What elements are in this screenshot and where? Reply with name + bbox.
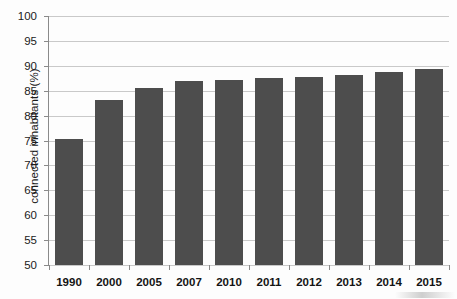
bar-slot: [129, 16, 169, 265]
bar: [95, 100, 123, 265]
bar: [135, 88, 163, 265]
bar-chart: connected inhabitants (%) 10095908580757…: [0, 0, 457, 299]
bar: [295, 77, 323, 265]
y-tick-label: 50: [5, 260, 37, 272]
y-tick-label: 75: [5, 136, 37, 148]
x-tick-mark: [369, 265, 370, 270]
y-tick-label: 85: [5, 86, 37, 98]
x-tick-mark: [449, 265, 450, 270]
bar-slot: [369, 16, 409, 265]
x-tick-mark: [289, 265, 290, 270]
bar: [215, 80, 243, 265]
bar: [55, 139, 83, 265]
bar-slot: [209, 16, 249, 265]
bar-slot: [49, 16, 89, 265]
bar-slot: [169, 16, 209, 265]
y-tick-label: 60: [5, 210, 37, 222]
y-tick-label: 70: [5, 160, 37, 172]
scan-artifact: [395, 292, 455, 298]
bar-slot: [289, 16, 329, 265]
bar-slot: [249, 16, 289, 265]
y-tick-label: 55: [5, 235, 37, 247]
x-tick-mark: [89, 265, 90, 270]
bar-slot: [329, 16, 369, 265]
bar: [415, 69, 443, 265]
bar: [175, 81, 203, 265]
x-tick-mark: [249, 265, 250, 270]
bar: [335, 75, 363, 265]
y-tick-label: 100: [5, 11, 37, 23]
plot-area: 10095908580757065605550 1990200020052007…: [49, 16, 449, 265]
y-tick-label: 90: [5, 61, 37, 73]
bar-slot: [409, 16, 449, 265]
bar: [375, 72, 403, 265]
y-tick-label: 95: [5, 36, 37, 48]
x-tick-mark: [209, 265, 210, 270]
x-tick-mark: [49, 265, 50, 270]
bar-slot: [89, 16, 129, 265]
y-tick-label: 65: [5, 185, 37, 197]
x-tick-mark: [329, 265, 330, 270]
x-tick-mark: [129, 265, 130, 270]
x-tick-mark: [169, 265, 170, 270]
bar-series: [49, 16, 449, 265]
x-tick-mark: [409, 265, 410, 270]
y-tick-label: 80: [5, 111, 37, 123]
x-tick-label: 2015: [405, 276, 453, 288]
bar: [255, 78, 283, 265]
